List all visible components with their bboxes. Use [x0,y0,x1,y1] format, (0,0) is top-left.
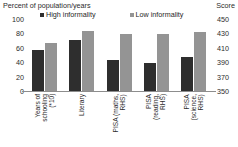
right-tick-5: 350 [217,88,229,96]
left-tick-0: 100 [12,16,24,24]
legend-item-low-informality: Low informality [130,11,184,19]
chart-legend: High informality Low informality [34,10,210,20]
x-axis-label: PISA (science, RHS) [183,94,205,120]
x-axis-label-cell: PISA (science, RHS) [175,94,212,146]
bar-groups [26,20,212,91]
left-tick-1: 80 [16,30,24,38]
x-axis-labels: Years of schooling (*10)LiteraryPISA (ma… [26,94,212,146]
bar-high-informality [32,50,44,91]
left-axis-caption: Percent of population/years [3,2,91,10]
right-tick-4: 370 [217,74,229,82]
bar-high-informality [69,40,81,91]
bar-high-informality [181,57,193,91]
right-tick-0: 450 [217,16,229,24]
x-axis-label-cell: PISA (reading, RHS) [138,94,175,146]
bar-low-informality [45,43,57,91]
bar-group [63,20,100,91]
legend-label-high-informality: High informality [46,11,96,19]
left-tick-3: 40 [16,59,24,67]
right-tick-2: 410 [217,45,229,53]
plot-area [26,20,212,92]
x-axis-label-cell: Literary [63,94,100,146]
legend-item-high-informality: High informality [40,11,96,19]
bar-group [175,20,212,91]
bar-low-informality [194,32,206,91]
left-tick-5: 0 [20,88,24,96]
x-axis-label-cell: PISA (maths, RHS) [100,94,137,146]
legend-swatch-low-informality [130,13,134,17]
x-axis-label: Years of schooling (*10) [34,94,56,122]
right-tick-3: 390 [217,59,229,67]
bar-chart: Percent of population/years Score High i… [0,0,238,147]
bar-high-informality [107,60,119,91]
bar-low-informality [120,34,132,91]
bar-low-informality [82,31,94,91]
x-axis-label: PISA (reading, RHS) [145,94,167,120]
right-axis-caption: Score [216,2,235,10]
bar-group [138,20,175,91]
legend-swatch-high-informality [40,13,44,17]
right-axis-ticks: 450430410390370350 [214,20,236,92]
bar-low-informality [157,34,169,92]
x-axis-label: Literary [78,94,85,116]
bar-group [26,20,63,91]
bar-high-informality [144,63,156,91]
right-tick-1: 430 [217,30,229,38]
x-axis-label-cell: Years of schooling (*10) [26,94,63,146]
x-axis-baseline [22,91,216,92]
legend-label-low-informality: Low informality [136,11,184,19]
left-tick-4: 20 [16,74,24,82]
left-axis-ticks: 100806040200 [2,20,24,92]
x-axis-label: PISA (maths, RHS) [112,94,126,132]
bar-group [100,20,137,91]
left-tick-2: 60 [16,45,24,53]
